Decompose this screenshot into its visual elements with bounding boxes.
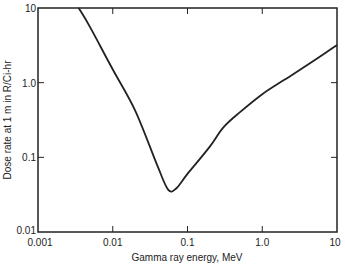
x-tick-label: 0.001 xyxy=(27,237,52,248)
x-axis-label: Gamma ray energy, MeV xyxy=(132,252,243,263)
dose-rate-chart: 0.0010.010.11.010 0.010.11.010 Gamma ray… xyxy=(0,0,345,270)
y-tick-label: 0.01 xyxy=(17,225,37,236)
y-tick-labels: 0.010.11.010 xyxy=(17,3,37,236)
x-tick-label: 0.1 xyxy=(181,237,195,248)
axis-ticks xyxy=(38,8,337,232)
y-tick-label: 10 xyxy=(25,3,37,14)
y-axis-label: Dose rate at 1 m in R/Ci-hr xyxy=(2,60,13,180)
plot-frame xyxy=(38,8,337,232)
x-tick-label: 0.01 xyxy=(103,237,123,248)
y-tick-label: 1.0 xyxy=(22,78,36,89)
x-tick-labels: 0.0010.010.11.010 xyxy=(27,237,341,248)
x-tick-label: 10 xyxy=(329,237,341,248)
y-tick-label: 0.1 xyxy=(22,152,36,163)
x-tick-label: 1.0 xyxy=(255,237,269,248)
dose-rate-curve xyxy=(79,8,337,192)
